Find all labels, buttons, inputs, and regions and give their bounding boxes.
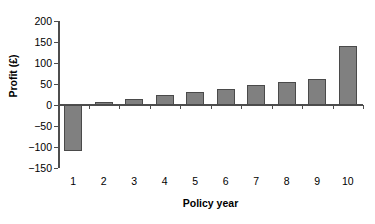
x-axis-tick-label: 1: [58, 175, 89, 188]
y-axis-tick-label: 100: [8, 58, 52, 69]
bar: [125, 99, 143, 105]
y-axis-tick-label: −100: [8, 142, 52, 153]
x-axis-tick-mark: [58, 105, 59, 109]
bar: [95, 102, 113, 105]
y-axis-tick-label: −150: [8, 163, 52, 174]
x-axis-tick-labels: 12345678910: [58, 175, 363, 189]
y-axis-tick-mark: [54, 126, 58, 127]
y-axis-tick-label: 150: [8, 37, 52, 48]
x-axis-tick-label: 3: [119, 175, 150, 188]
x-axis-tick-mark: [180, 105, 181, 109]
x-axis-tick-label: 5: [180, 175, 211, 188]
bar: [278, 82, 296, 105]
x-axis-tick-mark: [119, 105, 120, 109]
y-axis-tick-label: 200: [8, 16, 52, 27]
x-axis-tick-mark: [302, 105, 303, 109]
x-axis-tick-label: 7: [241, 175, 272, 188]
y-axis-tick-mark: [54, 42, 58, 43]
x-axis-title: Policy year: [58, 197, 363, 209]
x-axis-tick-label: 6: [211, 175, 242, 188]
x-axis-tick-label: 8: [272, 175, 303, 188]
x-axis-tick-label: 4: [150, 175, 181, 188]
y-axis-tick-labels: 200150100500−50−100−150: [8, 15, 52, 180]
y-axis-tick-mark: [54, 63, 58, 64]
bar: [64, 105, 82, 151]
x-axis-tick-mark: [241, 105, 242, 109]
y-axis-tick-label: 50: [8, 79, 52, 90]
bar: [156, 95, 174, 105]
y-axis-tick-mark: [54, 21, 58, 22]
bar: [247, 85, 265, 105]
x-axis-tick-mark: [272, 105, 273, 109]
x-axis-tick-mark: [150, 105, 151, 109]
x-axis-tick-mark: [89, 105, 90, 109]
y-axis-tick-mark: [54, 168, 58, 169]
x-axis-tick-mark: [333, 105, 334, 109]
bar: [217, 89, 235, 105]
y-axis-tick-mark: [54, 84, 58, 85]
y-axis-tick-label: 0: [8, 100, 52, 111]
y-axis-tick-mark: [54, 147, 58, 148]
x-axis-tick-label: 2: [89, 175, 120, 188]
y-axis-line: [58, 21, 60, 168]
bar: [308, 79, 326, 105]
x-axis-tick-mark: [211, 105, 212, 109]
plot-area: [58, 21, 363, 168]
bar: [186, 92, 204, 105]
y-axis-tick-label: −50: [8, 121, 52, 132]
bar-chart: Profit (£) 200150100500−50−100−150 12345…: [0, 0, 375, 224]
x-axis-tick-label: 10: [333, 175, 364, 188]
bar: [339, 46, 357, 105]
x-axis-tick-label: 9: [302, 175, 333, 188]
x-axis-tick-mark: [363, 105, 364, 109]
